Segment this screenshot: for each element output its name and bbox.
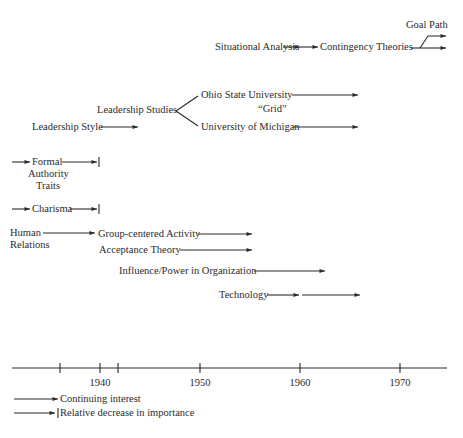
node-influence-power: Influence/Power in Organization <box>119 265 256 277</box>
legend-continuing-interest: Continuing interest <box>60 393 141 405</box>
node-formal: Formal <box>32 156 62 168</box>
node-charisma: Charisma <box>32 203 72 215</box>
axis-label-1970: 1970 <box>385 377 415 389</box>
node-leadership-studies: Leadership Studies <box>97 104 177 116</box>
axis-label-1950: 1950 <box>185 377 215 389</box>
node-grid: “Grid” <box>258 103 287 115</box>
node-relations: Relations <box>10 239 50 251</box>
node-authority: Authority <box>28 168 68 180</box>
node-contingency-theories: Contingency Theories <box>320 41 413 53</box>
axis-label-1960: 1960 <box>285 377 315 389</box>
node-traits: Traits <box>28 180 68 192</box>
node-acceptance-theory: Acceptance Theory <box>99 244 181 256</box>
node-university-michigan: University of Michigan <box>201 121 300 133</box>
node-human: Human <box>10 227 41 239</box>
node-technology: Technology <box>219 289 268 301</box>
diagram-lines <box>0 0 463 438</box>
legend-relative-decrease: Relative decrease in importance <box>60 407 194 419</box>
node-goal-path: Goal Path <box>406 19 448 31</box>
node-group-centered: Group-centered Activity <box>98 228 200 240</box>
node-situational-analysis: Situational Analysis <box>215 41 299 53</box>
node-ohio-state: Ohio State University <box>201 89 293 101</box>
axis-label-1940: 1940 <box>85 377 115 389</box>
node-leadership-style: Leadership Style <box>32 121 103 133</box>
